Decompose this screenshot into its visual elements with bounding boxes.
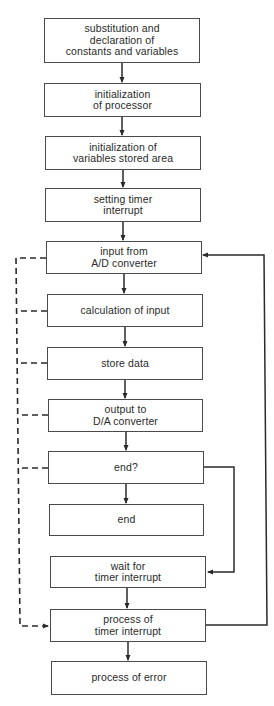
node-process-timer: process of timer interrupt: [50, 609, 206, 642]
node-setting-timer: setting timer interrupt: [45, 188, 201, 222]
node-output-da: output to D/A converter: [48, 399, 203, 432]
node-end-decision: end?: [48, 451, 204, 484]
node-wait-timer: wait for timer interrupt: [50, 556, 206, 588]
node-init-variables: initialization of variables stored area: [45, 136, 201, 170]
node-calculation: calculation of input: [47, 294, 203, 327]
node-substitution-declaration: substitution and declaration of constant…: [44, 18, 200, 63]
node-process-error: process of error: [51, 661, 207, 695]
node-store-data: store data: [47, 347, 203, 380]
node-init-processor: initialization of processor: [44, 83, 201, 117]
node-input-ad: input from A/D converter: [46, 241, 202, 274]
node-end: end: [49, 504, 204, 536]
